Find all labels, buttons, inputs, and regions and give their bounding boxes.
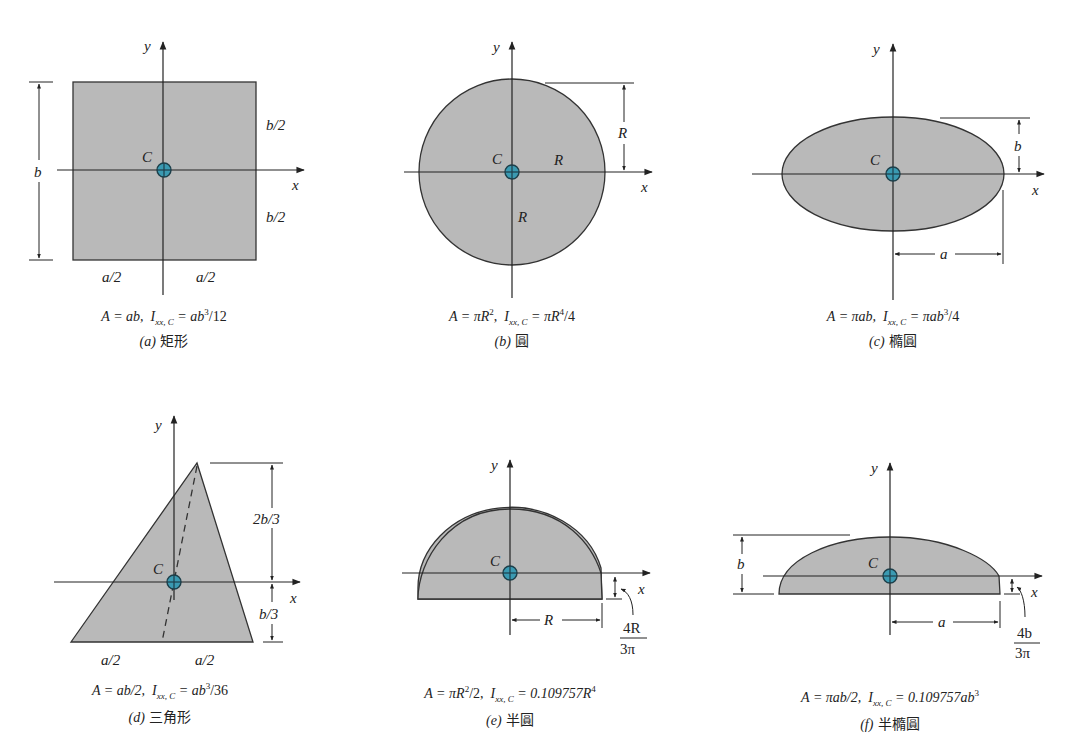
- area-exponent: 2: [489, 307, 494, 317]
- inertia-rhs: = πR: [528, 309, 560, 324]
- inertia-rhs: = ab: [174, 309, 204, 324]
- shape-a-rectangle: y x b b/2 b/2 a/2 a/2 C: [29, 38, 304, 295]
- offset-denominator: 3π: [620, 641, 636, 657]
- formula-d: A = ab/2, Ixx, C = ab3/36: [92, 683, 228, 699]
- dim-a-label: a: [940, 246, 948, 262]
- dim-b2-lower-label: b/2: [266, 209, 286, 225]
- centroid-marker-icon: [883, 569, 897, 583]
- caption-tag: (d): [129, 710, 145, 725]
- inertia-subscript: xx, C: [155, 317, 174, 327]
- area-formula: A = ab,: [101, 309, 143, 324]
- x-axis-label: x: [289, 590, 297, 606]
- formula-b: A = πR2, Ixx, C = πR4/4: [449, 309, 575, 325]
- inertia-rhs: = 0.109757R: [514, 686, 592, 701]
- triangle-area: [71, 463, 253, 642]
- y-axis-label: y: [489, 457, 498, 473]
- centroid-marker-icon: [503, 566, 517, 580]
- dim-b2-upper-label: b/2: [266, 117, 286, 133]
- caption-tag: (b): [495, 334, 511, 349]
- centroid-marker-icon: [505, 165, 519, 179]
- caption-name: 三角形: [149, 709, 191, 725]
- y-axis-label: y: [153, 417, 162, 433]
- inertia-exponent: 4: [560, 307, 565, 317]
- caption-tag: (e): [486, 713, 502, 728]
- caption-tag: (f): [860, 717, 873, 732]
- inertia-rhs: = 0.109757ab: [891, 690, 974, 705]
- shape-f-semi-ellipse: y x b 4b 3π a C: [733, 460, 1042, 661]
- dim-2b3-label: 2b/3: [253, 511, 280, 527]
- inertia-rhs-tail: /4: [564, 309, 575, 324]
- dim-b3-label: b/3: [259, 606, 278, 622]
- inertia-subscript: xx, C: [873, 698, 892, 708]
- formula-c: A = πab, Ixx, C = πab3/4: [827, 309, 959, 325]
- y-axis-label: y: [491, 39, 500, 55]
- dim-a2-left-label: a/2: [102, 269, 122, 285]
- caption-name: 圓: [515, 333, 529, 349]
- y-axis-label: y: [869, 460, 878, 476]
- caption-e: (e) 半圓: [486, 709, 534, 729]
- centroid-label: C: [490, 553, 501, 569]
- area-tail: ,: [494, 309, 498, 324]
- caption-c: (c) 橢圓: [869, 330, 917, 350]
- caption-tag: (c): [869, 334, 885, 349]
- caption-name: 矩形: [160, 333, 188, 349]
- inertia-rhs-tail: /36: [210, 683, 228, 698]
- dim-a-label: a: [938, 614, 946, 630]
- inertia-exponent: 3: [944, 307, 949, 317]
- shape-d-triangle: y x 2b/3 b/3 a/2 a/2 C: [54, 416, 300, 668]
- centroid-label: C: [868, 555, 879, 571]
- dim-b-label: b: [1014, 138, 1022, 154]
- y-axis-label: y: [871, 41, 880, 57]
- dim-R-label: R: [543, 612, 553, 628]
- inertia-exponent: 3: [974, 688, 979, 698]
- formula-a: A = ab, Ixx, C = ab3/12: [101, 309, 226, 325]
- inertia-exponent: 3: [206, 681, 211, 691]
- area-formula: A = ab/2,: [92, 683, 145, 698]
- area-formula: A = πab/2,: [801, 690, 861, 705]
- offset-numerator: 4R: [623, 620, 641, 636]
- x-axis-label: x: [637, 581, 645, 597]
- dim-a2-right-label: a/2: [195, 652, 215, 668]
- caption-b: (b) 圓: [495, 330, 530, 350]
- inertia-rhs-tail: /4: [948, 309, 959, 324]
- dim-b-label: b: [737, 556, 745, 572]
- centroid-marker-icon: [157, 163, 171, 177]
- centroid-label: C: [142, 149, 153, 165]
- inertia-subscript: xx, C: [509, 317, 528, 327]
- inertia-subscript: xx, C: [495, 694, 514, 704]
- inertia-rhs: = πab: [906, 309, 943, 324]
- centroid-label: C: [870, 152, 881, 168]
- offset-fraction: 4R 3π: [620, 620, 647, 657]
- caption-f: (f) 半橢圓: [860, 713, 920, 733]
- caption-a: (a) 矩形: [140, 330, 189, 350]
- dim-R-horizontal-label: R: [553, 152, 563, 168]
- centroid-label: C: [153, 561, 164, 577]
- offset-fraction: 4b 3π: [1014, 625, 1040, 661]
- area-formula: A = πR: [449, 309, 489, 324]
- caption-tag: (a): [140, 334, 156, 349]
- caption-name: 橢圓: [889, 333, 917, 349]
- x-axis-label: x: [640, 179, 648, 195]
- x-axis-label: x: [1030, 584, 1038, 600]
- formula-e: A = πR2/2, Ixx, C = 0.109757R4: [424, 686, 595, 702]
- y-axis-label: y: [142, 38, 151, 54]
- shape-b-circle: y x R R R C: [404, 39, 652, 298]
- inertia-rhs-tail: /12: [209, 309, 227, 324]
- caption-name: 半圓: [506, 712, 534, 728]
- inertia-subscript: xx, C: [157, 691, 176, 701]
- inertia-exponent: 4: [591, 684, 596, 694]
- area-tail: /2,: [469, 686, 483, 701]
- area-formula: A = πab,: [827, 309, 876, 324]
- caption-name: 半橢圓: [878, 716, 920, 732]
- area-formula: A = πR: [424, 686, 464, 701]
- centroid-marker-icon: [167, 575, 181, 589]
- centroid-label: C: [492, 151, 503, 167]
- dim-a2-right-label: a/2: [196, 269, 216, 285]
- x-axis-label: x: [1031, 182, 1039, 198]
- centroid-marker-icon: [886, 167, 900, 181]
- moment-of-inertia-diagram: y x b b/2 b/2 a/2 a/2 C y x R R R C: [0, 0, 1077, 755]
- dim-b-label: b: [34, 164, 42, 180]
- inertia-rhs: = ab: [175, 683, 205, 698]
- formula-f: A = πab/2, Ixx, C = 0.109757ab3: [801, 690, 979, 706]
- offset-denominator: 3π: [1015, 645, 1031, 661]
